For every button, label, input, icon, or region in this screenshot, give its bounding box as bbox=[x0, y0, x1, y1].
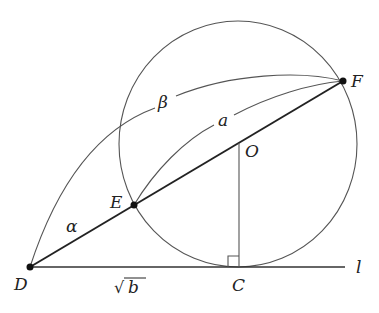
geometry-diagram: D E F O C l α β a √ b bbox=[0, 0, 379, 313]
point-E bbox=[131, 202, 138, 209]
arc-beta bbox=[30, 108, 155, 267]
label-a: a bbox=[218, 110, 228, 130]
arc-beta-upper bbox=[176, 75, 343, 96]
label-O: O bbox=[245, 141, 259, 161]
label-sqrt-radical: √ bbox=[114, 278, 125, 297]
point-F bbox=[340, 78, 347, 85]
label-sqrt-b: b bbox=[128, 277, 139, 297]
right-angle-marker bbox=[228, 256, 239, 267]
label-E: E bbox=[109, 192, 123, 212]
point-D bbox=[27, 264, 34, 271]
arc-a-upper bbox=[234, 81, 343, 115]
label-beta: β bbox=[157, 92, 168, 112]
label-D: D bbox=[13, 274, 28, 294]
label-alpha: α bbox=[66, 216, 78, 236]
label-F: F bbox=[350, 71, 364, 91]
segment-DF bbox=[30, 81, 343, 267]
label-C: C bbox=[232, 275, 245, 295]
label-l: l bbox=[356, 257, 361, 277]
